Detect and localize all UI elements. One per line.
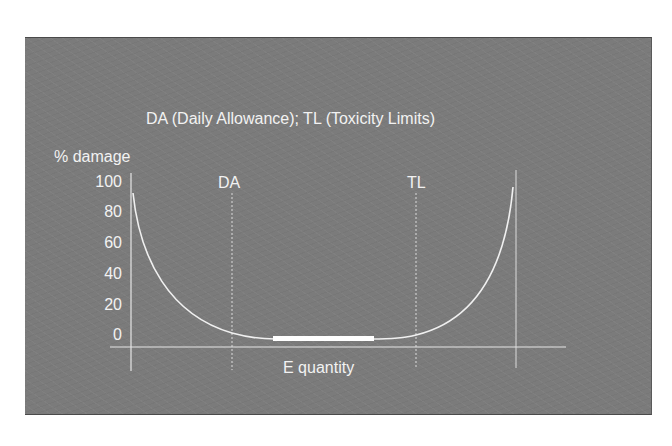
y-axis-label: % damage: [54, 148, 131, 165]
y-tick-0: 0: [113, 326, 122, 343]
y-tick-20: 20: [104, 296, 122, 313]
damage-curve: [133, 187, 513, 339]
da-label: DA: [218, 174, 241, 191]
x-axis-label: E quantity: [283, 359, 354, 376]
y-tick-80: 80: [104, 203, 122, 220]
chart-title: DA (Daily Allowance); TL (Toxicity Limit…: [146, 110, 435, 127]
chart-svg: DA (Daily Allowance); TL (Toxicity Limit…: [0, 0, 672, 446]
y-ticks: 100 80 60 40 20 0: [95, 173, 122, 343]
y-tick-40: 40: [104, 265, 122, 282]
y-tick-100: 100: [95, 173, 122, 190]
optimal-range-bar: [273, 336, 374, 341]
y-tick-60: 60: [104, 234, 122, 251]
tl-label: TL: [407, 174, 426, 191]
